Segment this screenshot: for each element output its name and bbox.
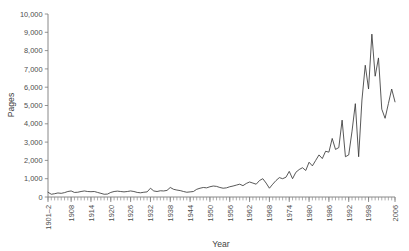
x-axis: 1901–21908191419201926193219381944195019… <box>44 197 400 230</box>
x-tick-label: 1968 <box>265 205 274 221</box>
x-tick-label: 1962 <box>245 205 254 221</box>
x-tick-label: 1926 <box>126 205 135 221</box>
x-tick-label: 1914 <box>87 205 96 221</box>
chart-figure: 10,0009,0008,0007,0006,0005,0004,0003,00… <box>0 0 409 251</box>
y-tick-label: 6,000 <box>24 83 43 92</box>
x-tick-label: 1986 <box>325 205 334 221</box>
x-tick-label: 1938 <box>166 205 175 221</box>
x-axis-title: Year <box>212 239 230 249</box>
y-tick-label: 4,000 <box>24 119 43 128</box>
x-tick-label: 1932 <box>146 205 155 221</box>
x-tick-label: 1901–2 <box>44 205 53 230</box>
y-tick-label: 9,000 <box>24 28 43 37</box>
y-tick-label: 2,000 <box>24 156 43 165</box>
x-tick-label: 1998 <box>364 205 373 221</box>
y-axis: 10,0009,0008,0007,0006,0005,0004,0003,00… <box>20 10 48 202</box>
x-tick-label: 1950 <box>206 205 215 221</box>
x-tick-label: 1980 <box>305 205 314 221</box>
y-axis-title: Pages <box>6 93 16 117</box>
x-tick-label: 1974 <box>285 205 294 221</box>
y-tick-label: 0 <box>38 193 42 202</box>
pages-per-year-line-chart: 10,0009,0008,0007,0006,0005,0004,0003,00… <box>0 0 409 251</box>
x-tick-label: 1920 <box>107 205 116 221</box>
y-tick-label: 3,000 <box>24 138 43 147</box>
x-tick-label: 1992 <box>345 205 354 221</box>
y-tick-label: 8,000 <box>24 46 43 55</box>
x-tick-label: 1956 <box>226 205 235 221</box>
x-tick-label: 2006 <box>391 205 400 221</box>
x-tick-label: 1908 <box>67 205 76 221</box>
y-tick-label: 1,000 <box>24 174 43 183</box>
plot-background <box>48 14 395 197</box>
y-tick-label: 7,000 <box>24 65 43 74</box>
x-tick-label: 1944 <box>186 205 195 221</box>
y-tick-label: 5,000 <box>24 101 43 110</box>
y-tick-label: 10,000 <box>20 10 43 19</box>
